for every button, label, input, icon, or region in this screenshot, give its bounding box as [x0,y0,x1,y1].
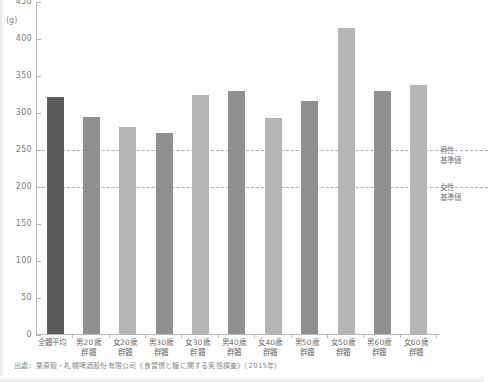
reference-label-line2: 基準値 [440,193,462,202]
bar-slot [255,2,291,334]
x-axis-label-line2: 群體 [141,348,181,358]
y-axis-tick-label: 400 [2,35,32,43]
x-axis-tick-label: 女20歲群體 [105,338,145,357]
x-axis-tick-label: 女40歲群體 [250,338,290,357]
bar-slot [182,2,218,334]
x-axis-label-line1: 男60歲 [367,338,391,347]
y-axis-tick-label: 100 [2,257,32,265]
scan-edge-left [0,0,7,382]
bar [156,133,173,334]
x-axis-label-line2: 群體 [287,348,327,358]
y-axis-tick-label: 150 [2,220,32,228]
source-note: 出處：栗原毅・札幌啤酒股份有限公司《食習慣と糖に関する実態調査》（2015年） [14,361,282,371]
x-axis-tick-label: 女60歲群體 [396,338,436,357]
bar-slot [401,2,437,334]
x-axis-label-line2: 群體 [250,348,290,358]
y-axis-unit-label: (g) [6,16,17,25]
x-axis-tick-label: 全體平均 [32,338,72,348]
bar [119,127,136,334]
x-axis-tick-label: 男50歲群體 [287,338,327,357]
x-axis-label-line2: 群體 [69,348,109,358]
reference-label-line1: 女性 [440,183,454,192]
bar-slot [364,2,400,334]
x-axis-label-line1: 男30歲 [149,338,173,347]
scan-edge-bottom [0,376,484,382]
reference-line-label: 男性基準値 [440,146,462,165]
x-axis-tick-label: 男60歲群體 [359,338,399,357]
x-axis-tick-label: 女30歲群體 [178,338,218,357]
x-axis-line [36,334,440,335]
x-axis-label-line2: 群體 [178,348,218,358]
x-axis-label-line1: 男50歲 [295,338,319,347]
x-axis-label-line1: 女40歲 [258,338,282,347]
x-axis-label-line1: 男40歲 [222,338,246,347]
y-axis-tick-label: 450 [2,0,32,6]
bar [83,117,100,334]
y-axis-tick-label: 250 [2,146,32,154]
bar [338,28,355,334]
x-axis-label-line2: 群體 [359,348,399,358]
x-axis-label-line1: 男20歲 [76,338,100,347]
x-axis-label-line1: 女30歲 [185,338,209,347]
y-axis-tick-label: 350 [2,72,32,80]
x-axis-label-line2: 群體 [396,348,436,358]
x-axis-label-line2: 群體 [214,348,254,358]
x-axis-label-line1: 女20歲 [113,338,137,347]
bar-slot [110,2,146,334]
bar [192,95,209,334]
bar [374,91,391,334]
x-axis-label-line1: 女50歲 [331,338,355,347]
bar [47,97,64,334]
reference-label-line2: 基準値 [440,156,462,165]
bar-slot [37,2,73,334]
y-axis-tick-label: 0 [2,331,32,339]
bar [301,101,318,334]
x-axis-tick-label: 男40歲群體 [214,338,254,357]
reference-line-label: 女性基準値 [440,183,462,202]
bar [410,85,427,334]
x-axis-label-line1: 女60歲 [404,338,428,347]
chart-plot-area: (g) 050100150200250300350400450 男性基準値女性基… [36,2,436,335]
bar-slot [292,2,328,334]
x-axis-tick-label: 男30歲群體 [141,338,181,357]
reference-label-line1: 男性 [440,146,454,155]
bar-slot [146,2,182,334]
y-axis-tick-label: 50 [2,294,32,302]
x-axis-labels: 全體平均男20歲群體女20歲群體男30歲群體女30歲群體男40歲群體女40歲群體… [37,338,437,360]
x-axis-tick-label: 女50歲群體 [323,338,363,357]
y-axis-tick-label: 300 [2,109,32,117]
y-axis-tick-label: 200 [2,183,32,191]
bar [228,91,245,334]
x-axis-label-line2: 群體 [105,348,145,358]
bar-slot [328,2,364,334]
bar-series [37,2,436,334]
x-axis-label-line2: 群體 [323,348,363,358]
bar-slot [219,2,255,334]
x-axis-label-line1: 全體平均 [38,338,67,347]
x-axis-tick-label: 男20歲群體 [69,338,109,357]
bar [265,118,282,334]
bar-slot [73,2,109,334]
y-axis-tick-mark [36,335,41,336]
